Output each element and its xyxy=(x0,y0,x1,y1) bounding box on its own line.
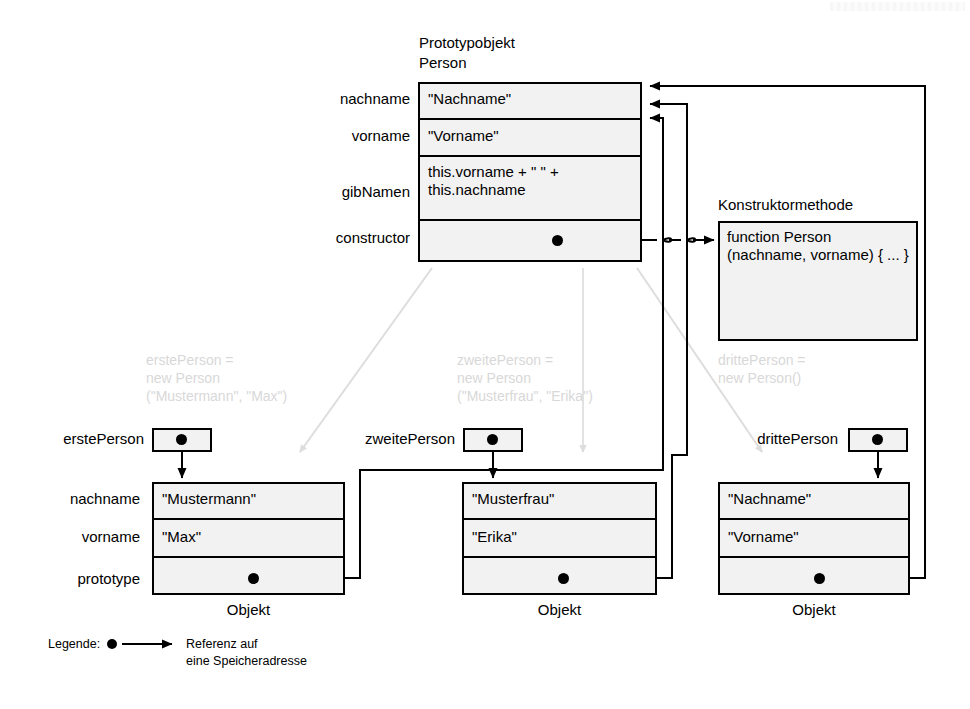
object-row-label-nachname: nachname xyxy=(30,490,140,508)
object3-row-separator-2 xyxy=(720,556,908,558)
prototype-row-separator-2 xyxy=(420,155,640,157)
object3-value-nachname: "Nachname" xyxy=(728,490,811,508)
ghost-code-dritte-person: drittePerson = new Person() xyxy=(718,352,806,388)
object2-caption: Objekt xyxy=(462,601,657,619)
object-row-label-prototype: prototype xyxy=(30,570,140,588)
prototype-value-nachname: "Nachname" xyxy=(428,90,511,108)
prototype-value-vorname: "Vorname" xyxy=(428,127,499,145)
variable-reference-dot-zweite-person xyxy=(487,434,498,445)
variable-label-zweite-person: zweitePerson xyxy=(340,430,455,448)
object2-value-nachname: "Musterfrau" xyxy=(472,490,554,508)
ghost-code-zweite-person: zweitePerson = new Person ("Musterfrau",… xyxy=(457,352,593,406)
constructor-method-box: function Person (nachname, vorname) { ..… xyxy=(718,221,918,341)
variable-label-dritte-person: drittePerson xyxy=(728,430,838,448)
prototype-caption-line1: Prototypobjekt xyxy=(419,34,515,52)
diagram-canvas: erstePerson = new Person ("Mustermann", … xyxy=(0,0,970,709)
variable-reference-dot-erste-person xyxy=(176,434,187,445)
object1-caption: Objekt xyxy=(152,601,345,619)
prototype-constructor-reference-dot xyxy=(552,235,563,246)
ghost-code-erste-person: erstePerson = new Person ("Mustermann", … xyxy=(146,352,287,406)
object2-prototype-reference-dot xyxy=(558,573,569,584)
variable-reference-dot-dritte-person xyxy=(872,434,883,445)
object3-caption: Objekt xyxy=(718,601,910,619)
prototype-value-gibnamen: this.vorname + " " + this.nachname xyxy=(428,163,559,198)
prototype-caption-line2: Person xyxy=(419,54,467,72)
object2-value-vorname: "Erika" xyxy=(472,528,517,546)
constructor-method-caption: Konstruktormethode xyxy=(718,196,853,214)
object1-prototype-reference-dot xyxy=(248,573,259,584)
prototype-field-label-nachname: nachname xyxy=(300,90,410,108)
object1-row-separator-2 xyxy=(154,556,343,558)
prototype-field-label-gibnamen: gibNamen xyxy=(300,183,410,201)
object2-row-separator-1 xyxy=(464,518,655,520)
object1-value-vorname: "Max" xyxy=(162,528,201,546)
legend-description-line1: Referenz auf xyxy=(186,637,258,652)
scan-artifact xyxy=(830,2,965,11)
legend-reference-dot xyxy=(107,639,117,649)
prototype-field-label-vorname: vorname xyxy=(300,127,410,145)
legend-description-line2: eine Speicheradresse xyxy=(186,654,307,669)
object3-row-separator-1 xyxy=(720,518,908,520)
object-row-label-vorname: vorname xyxy=(30,528,140,546)
prototype-row-separator-1 xyxy=(420,118,640,120)
legend-label: Legende: xyxy=(48,637,100,652)
object3-value-vorname: "Vorname" xyxy=(728,528,799,546)
object1-row-separator-1 xyxy=(154,518,343,520)
object2-row-separator-2 xyxy=(464,556,655,558)
variable-label-erste-person: erstePerson xyxy=(36,430,144,448)
object1-value-nachname: "Mustermann" xyxy=(162,490,256,508)
prototype-field-label-constructor: constructor xyxy=(290,229,410,247)
prototype-row-separator-3 xyxy=(420,219,640,221)
object3-prototype-reference-dot xyxy=(814,573,825,584)
